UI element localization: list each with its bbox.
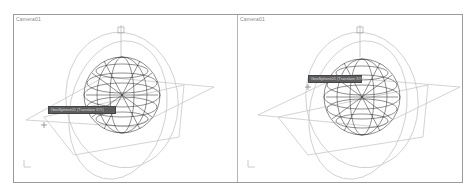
- scene-right: [238, 15, 463, 184]
- axis-tripod-icon: [248, 160, 255, 167]
- axis-tripod-icon: [24, 160, 31, 167]
- transform-crosshair: [41, 122, 47, 128]
- rotate-gizmo-rings: [26, 25, 214, 184]
- object-tooltip: GeoSphere01 (Translate X/Y): [308, 75, 362, 83]
- object-tooltip: GeoSphere01 (Translate X/Y): [48, 106, 116, 114]
- rotate-gizmo-rings: [258, 25, 460, 184]
- geosphere-wireframe: [324, 59, 400, 135]
- scene-left: [14, 15, 238, 184]
- viewport-left[interactable]: Camera01: [14, 15, 238, 182]
- viewport-right[interactable]: Camera01: [238, 15, 463, 182]
- geosphere-wireframe: [84, 57, 160, 133]
- viewport-frame: Camera01: [13, 14, 463, 183]
